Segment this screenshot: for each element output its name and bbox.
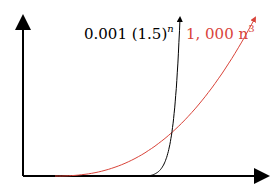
chart: 0.001 (1.5)n 1, 000 n3 bbox=[0, 0, 278, 191]
label-cubic: 1, 000 n3 bbox=[186, 23, 255, 43]
label-exponential: 0.001 (1.5)n bbox=[84, 23, 174, 43]
